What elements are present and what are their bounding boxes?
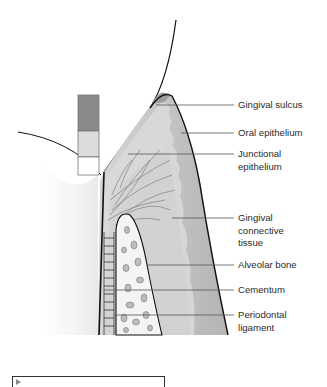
label-gingival-connective-tissue: Gingival connective tissue <box>238 212 284 250</box>
label-alveolar-bone: Alveolar bone <box>238 259 297 272</box>
label-oral-epithelium: Oral epithelium <box>238 127 303 140</box>
tooth-shadow <box>40 160 98 335</box>
label-periodontal-ligament: Periodontal ligament <box>238 309 287 334</box>
caption-box <box>12 376 165 387</box>
triangle-icon <box>16 379 21 385</box>
label-cementum: Cementum <box>238 284 285 297</box>
label-gingival-sulcus: Gingival sulcus <box>238 99 303 112</box>
label-junctional-epithelium: Junctional epithelium <box>238 148 282 173</box>
shading-key <box>78 95 99 175</box>
